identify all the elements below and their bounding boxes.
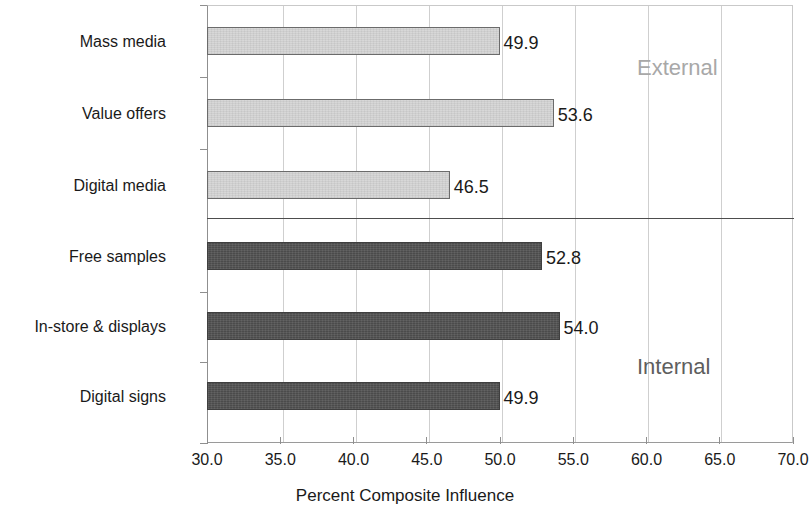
x-axis-tick	[426, 437, 427, 444]
x-axis-tick	[719, 437, 720, 444]
y-axis-tick	[200, 362, 207, 363]
bar-value-free-samples: 52.8	[546, 249, 581, 267]
x-tick-label-35: 35.0	[265, 452, 296, 468]
gridline-55	[575, 6, 576, 442]
y-axis-tick	[200, 5, 207, 6]
bar-digital-media	[207, 171, 450, 199]
bar-chart: Mass media Value offers Digital media Fr…	[0, 0, 810, 517]
annotation-internal: Internal	[637, 356, 710, 378]
x-tick-label-60: 60.0	[631, 452, 662, 468]
x-tick-label-40: 40.0	[338, 452, 369, 468]
x-axis-tick	[793, 437, 794, 444]
x-axis-tick	[646, 437, 647, 444]
bar-value-offers	[207, 99, 554, 127]
x-axis-tick	[207, 437, 208, 444]
annotation-external: External	[637, 57, 718, 79]
group-divider	[207, 218, 794, 219]
gridline-65	[721, 6, 722, 442]
y-axis-tick	[200, 149, 207, 150]
x-axis-tick	[280, 437, 281, 444]
y-axis-tick	[200, 292, 207, 293]
bar-free-samples	[207, 242, 542, 270]
x-tick-label-65: 65.0	[704, 452, 735, 468]
category-label-mass-media: Mass media	[80, 34, 166, 50]
bar-in-store-displays	[207, 312, 560, 340]
category-label-digital-signs: Digital signs	[80, 389, 166, 405]
x-tick-label-55: 55.0	[558, 452, 589, 468]
x-tick-label-50: 50.0	[484, 452, 515, 468]
gridline-50	[502, 6, 503, 442]
bar-value-digital-signs: 49.9	[504, 389, 539, 407]
gridline-35	[283, 6, 284, 442]
category-label-in-store-displays: In-store & displays	[34, 319, 166, 335]
bar-value-digital-media: 46.5	[454, 178, 489, 196]
x-axis-title: Percent Composite Influence	[0, 487, 810, 504]
x-axis-tick	[500, 437, 501, 444]
bar-value-value-offers: 53.6	[558, 106, 593, 124]
x-tick-label-70: 70.0	[777, 452, 808, 468]
y-axis-tick	[200, 443, 207, 444]
x-axis-tick	[353, 437, 354, 444]
bar-digital-signs	[207, 382, 500, 410]
x-tick-label-45: 45.0	[411, 452, 442, 468]
category-label-digital-media: Digital media	[74, 178, 166, 194]
bar-value-mass-media: 49.9	[504, 34, 539, 52]
category-label-free-samples: Free samples	[69, 249, 166, 265]
x-axis-tick	[573, 437, 574, 444]
bar-mass-media	[207, 27, 500, 55]
x-tick-label-30: 30.0	[191, 452, 222, 468]
category-label-value-offers: Value offers	[82, 106, 166, 122]
gridline-45	[429, 6, 430, 442]
y-axis-tick	[200, 77, 207, 78]
bar-value-in-store-displays: 54.0	[564, 319, 599, 337]
gridline-40	[356, 6, 357, 442]
